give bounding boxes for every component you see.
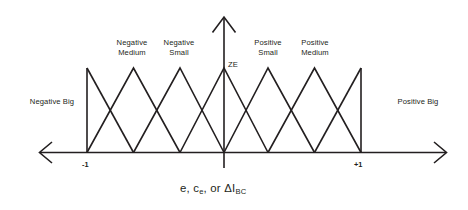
set-label-positive-medium: Positive Medium [289, 38, 341, 58]
x-axis-title: e, ce, or ΔIBC [180, 182, 246, 194]
fuzzy-membership-figure: Negative Big Negative Medium Negative Sm… [0, 0, 468, 210]
x-axis-title-part1: e, c [180, 182, 199, 194]
set-shape-positive-medium [268, 68, 361, 153]
set-label-negative-small-line1: Negative [164, 38, 195, 47]
x-tick-label-plus-one: +1 [354, 160, 362, 169]
set-label-negative-small-line2: Small [169, 48, 189, 57]
set-label-negative-small: Negative Small [153, 38, 205, 58]
x-axis-title-part2: , or ΔI [204, 182, 236, 194]
set-label-positive-small: Positive Small [242, 38, 294, 58]
set-label-negative-medium-line2: Medium [118, 48, 146, 57]
set-label-positive-small-line1: Positive [254, 38, 281, 47]
set-label-positive-medium-line1: Positive [301, 38, 328, 47]
x-axis-title-sub-e: e [199, 187, 203, 196]
set-label-positive-medium-line2: Medium [301, 48, 329, 57]
set-label-negative-medium-line1: Negative [117, 38, 148, 47]
set-label-negative-big: Negative Big [12, 97, 92, 107]
set-shape-negative-medium [87, 68, 180, 153]
set-label-negative-medium: Negative Medium [106, 38, 158, 58]
set-shape-negative-small [134, 68, 225, 153]
set-shape-positive-small [224, 68, 315, 153]
x-tick-label-minus-one: -1 [82, 160, 89, 169]
set-label-zero: ZE [228, 60, 238, 69]
set-label-positive-big: Positive Big [378, 97, 458, 107]
set-label-positive-small-line2: Small [258, 48, 278, 57]
x-axis-title-sub-bc: BC [235, 187, 246, 196]
